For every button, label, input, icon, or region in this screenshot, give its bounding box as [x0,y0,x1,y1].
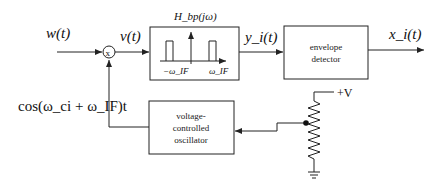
input-signal: w(t) [46,25,102,52]
output-signal: x_i(t) [368,26,424,50]
block-diagram: w(t) x v(t) H_bp(jω) −ω_IF ω_IF y_i(t) e… [0,0,442,189]
vco-label-2: controlled [173,123,210,133]
pos-freq-label: ω_IF [209,66,229,76]
mixer-output-signal: v(t) [115,28,149,52]
vco-label-3: oscillator [174,135,208,145]
neg-freq-label: −ω_IF [163,66,189,76]
lo-feedback-path: cos(ω_ci + ω_IF)t [18,60,149,127]
filter-output-label: y_i(t) [243,29,277,46]
wiper-dot [303,120,309,126]
mixer: x [103,46,115,58]
vco-label-1: voltage- [176,111,206,121]
resistor-zigzag [308,101,320,172]
control-voltage-line [235,120,309,131]
bandpass-filter-block: H_bp(jω) −ω_IF ω_IF [150,10,239,80]
envelope-label-2: detector [312,54,341,64]
lo-signal-label: cos(ω_ci + ω_IF)t [18,98,128,115]
filter-title: H_bp(jω) [173,10,217,23]
input-label: w(t) [46,25,70,42]
mixer-output-label: v(t) [120,28,141,45]
mixer-symbol: x [106,48,111,58]
vco-block: voltage- controlled oscillator [149,101,234,154]
potentiometer: +V [308,86,353,178]
envelope-detector-block: envelope detector [284,26,368,79]
supply-label: +V [337,86,353,100]
output-label: x_i(t) [388,26,421,43]
envelope-label-1: envelope [310,42,342,52]
ground-icon [308,172,320,178]
filter-output-signal: y_i(t) [239,29,283,52]
